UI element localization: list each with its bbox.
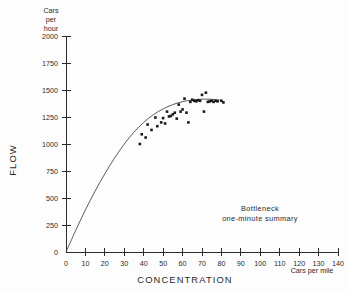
y-tick-label: 1000 xyxy=(42,140,58,149)
data-point xyxy=(187,121,190,124)
data-point xyxy=(203,110,206,113)
data-point xyxy=(174,111,177,114)
annotation-line1: Bottleneck xyxy=(241,204,279,213)
x-tick-label: 0 xyxy=(64,259,68,268)
data-point xyxy=(199,100,202,103)
data-point xyxy=(222,101,225,104)
y-tick-label: 750 xyxy=(46,167,58,176)
x-tick-label: 80 xyxy=(217,259,225,268)
data-point xyxy=(140,133,143,136)
data-point xyxy=(177,103,180,106)
fitted-curve xyxy=(66,99,221,252)
chart-page: 025050075010001250150017502000 010203040… xyxy=(0,0,350,291)
data-point xyxy=(166,110,169,113)
x-tick-label: 40 xyxy=(140,259,148,268)
data-point xyxy=(216,100,219,103)
data-point xyxy=(162,117,165,120)
data-point xyxy=(181,108,184,111)
data-point xyxy=(185,111,188,114)
x-tick-label: 50 xyxy=(159,259,167,268)
y-unit-label-line3: hour xyxy=(44,24,59,33)
data-point xyxy=(183,97,186,100)
y-tick-label: 1500 xyxy=(42,86,58,95)
data-point xyxy=(146,123,149,126)
annotation-line2: one-minute summary xyxy=(222,214,298,223)
data-point xyxy=(139,143,142,146)
x-tick-label: 20 xyxy=(101,259,109,268)
x-tick-label: 110 xyxy=(274,259,285,268)
x-axis-title: CONCENTRATION xyxy=(137,274,232,285)
y-axis-title: FLOW xyxy=(7,144,18,175)
y-tick-label: 1250 xyxy=(42,113,58,122)
y-tick-label: 500 xyxy=(46,194,58,203)
x-tick-label: 30 xyxy=(120,259,128,268)
x-tick-label: 60 xyxy=(179,259,187,268)
x-axis-ticks: 0102030405060708090100110120130140 xyxy=(64,248,344,268)
data-point xyxy=(150,129,153,132)
data-point xyxy=(205,91,208,94)
data-point xyxy=(160,121,163,124)
y-axis-ticks: 025050075010001250150017502000 xyxy=(42,32,71,257)
y-tick-label: 1750 xyxy=(42,59,58,68)
x-tick-label: 90 xyxy=(237,259,245,268)
data-point xyxy=(164,122,167,125)
x-tick-label: 70 xyxy=(198,259,206,268)
data-point xyxy=(201,94,204,97)
x-tick-label: 140 xyxy=(332,259,344,268)
x-unit-label: Cars per mile xyxy=(291,266,334,275)
data-point xyxy=(156,125,159,128)
x-tick-label: 100 xyxy=(254,259,266,268)
y-unit-label-line2: per xyxy=(46,15,57,24)
data-point xyxy=(175,117,178,120)
data-point xyxy=(154,116,157,119)
y-tick-label: 0 xyxy=(54,248,58,257)
x-tick-label: 10 xyxy=(81,259,89,268)
flow-concentration-chart: 025050075010001250150017502000 010203040… xyxy=(0,0,350,291)
y-unit-label-line1: Cars xyxy=(43,6,59,15)
y-tick-label: 250 xyxy=(46,221,58,230)
data-point xyxy=(144,136,147,139)
